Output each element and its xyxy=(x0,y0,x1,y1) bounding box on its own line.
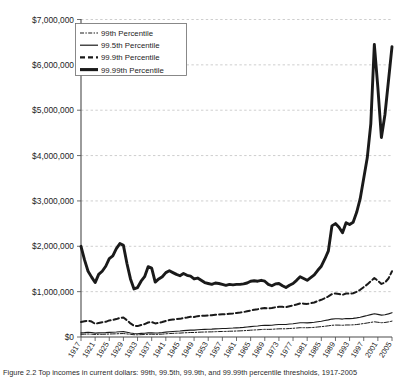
x-axis-tick-label: 2005 xyxy=(377,340,394,359)
y-axis-tick-label: $3,000,000 xyxy=(32,196,74,206)
y-axis-tick-label: $7,000,000 xyxy=(32,15,74,25)
x-axis-tick-label: 1989 xyxy=(321,340,338,359)
y-axis-tick-label: $5,000,000 xyxy=(32,105,74,115)
x-axis-tick-label: 1961 xyxy=(222,340,239,359)
x-axis-tick-label: 1969 xyxy=(250,340,267,359)
y-axis-labels-group: $7,000,000$6,000,000$5,000,000$4,000,000… xyxy=(32,15,74,343)
x-axis-tick-label: 1937 xyxy=(137,340,154,359)
x-axis-tick-label: 1917 xyxy=(66,340,83,359)
x-axis-tick-label: 1953 xyxy=(193,340,210,359)
x-axis-tick-label: 1945 xyxy=(165,340,182,359)
x-axis-tick-label: 1949 xyxy=(179,340,196,359)
x-axis-tick-label: 1957 xyxy=(207,340,224,359)
x-axis-tick-label: 1929 xyxy=(109,340,126,359)
income-percentile-line-chart: $7,000,000$6,000,000$5,000,000$4,000,000… xyxy=(0,0,411,378)
legend-label-1: 99.5th Percentile xyxy=(101,41,160,50)
figure-caption: Figure 2.2 Top incomes in current dollar… xyxy=(3,368,357,377)
x-axis-tick-label: 1985 xyxy=(306,340,323,359)
x-axis-tick-label: 1921 xyxy=(80,340,97,359)
legend-label-0: 99th Percentile xyxy=(101,29,153,38)
x-axis-tick-label: 1925 xyxy=(94,340,111,359)
x-axis-tick-label: 1977 xyxy=(278,340,295,359)
x-axis-labels-group: 1917192119251929193319371941194519491953… xyxy=(66,340,394,359)
series-line-3 xyxy=(81,44,392,288)
y-axis-tick-label: $4,000,000 xyxy=(32,151,74,161)
data-series-group xyxy=(81,44,392,334)
series-line-2 xyxy=(81,271,392,326)
series-line-1 xyxy=(81,313,392,334)
chart-legend: 99th Percentile99.5th Percentile99.9th P… xyxy=(76,24,187,76)
y-axis-tick-label: $6,000,000 xyxy=(32,60,74,70)
x-axis-tick-label: 1993 xyxy=(335,340,352,359)
x-axis-tick-label: 1973 xyxy=(264,340,281,359)
x-axis-ticks-group xyxy=(81,337,392,341)
x-axis-tick-label: 1981 xyxy=(292,340,309,359)
x-axis-tick-label: 1997 xyxy=(349,340,366,359)
figure-container: $7,000,000$6,000,000$5,000,000$4,000,000… xyxy=(0,0,411,378)
y-axis-tick-label: $1,000,000 xyxy=(32,287,74,297)
x-axis-tick-label: 1933 xyxy=(123,340,140,359)
chart-plot-area: $7,000,000$6,000,000$5,000,000$4,000,000… xyxy=(0,0,411,378)
x-axis-tick-label: 1965 xyxy=(236,340,253,359)
legend-label-2: 99.9th Percentile xyxy=(101,53,160,62)
y-axis-tick-label: $2,000,000 xyxy=(32,241,74,251)
x-axis-tick-label: 2001 xyxy=(363,340,380,359)
legend-label-3: 99.99th Percentile xyxy=(101,66,164,75)
y-axis-tick-label: $0 xyxy=(65,332,75,342)
x-axis-tick-label: 1941 xyxy=(151,340,168,359)
